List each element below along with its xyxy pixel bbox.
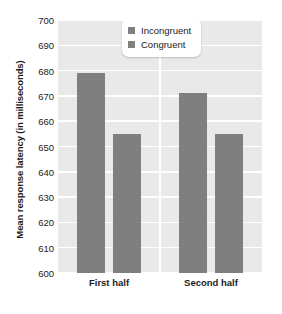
- y-tick-label: 610: [20, 242, 54, 253]
- y-tick-label: 670: [20, 90, 54, 101]
- y-tick-label: 600: [20, 268, 54, 279]
- legend-item: Incongruent: [128, 24, 191, 37]
- legend-swatch-icon: [128, 27, 135, 34]
- bar-chart: Mean response latency (in milliseconds) …: [0, 0, 282, 314]
- x-tick-label: First half: [59, 277, 159, 288]
- bar: [215, 134, 243, 273]
- y-tick-label: 640: [20, 166, 54, 177]
- legend-item: Congruent: [128, 38, 191, 51]
- legend-swatch-icon: [128, 41, 135, 48]
- y-tick-label: 700: [20, 15, 54, 26]
- bar: [113, 134, 141, 273]
- legend: IncongruentCongruent: [122, 18, 201, 57]
- bar: [179, 93, 207, 273]
- y-tick-label: 630: [20, 192, 54, 203]
- y-axis-tick-labels: 700690680670660650640630620610600: [18, 20, 54, 273]
- legend-label: Incongruent: [141, 25, 191, 36]
- x-axis-tick-labels: First halfSecond half: [58, 277, 262, 297]
- y-tick-label: 650: [20, 141, 54, 152]
- y-tick-label: 660: [20, 116, 54, 127]
- x-tick-label: Second half: [161, 277, 261, 288]
- plot-inner: [58, 20, 262, 273]
- y-tick-label: 680: [20, 65, 54, 76]
- y-tick-label: 690: [20, 40, 54, 51]
- category-divider: [159, 20, 161, 273]
- y-tick-label: 620: [20, 217, 54, 228]
- legend-label: Congruent: [141, 39, 185, 50]
- plot-area: [58, 20, 262, 273]
- bar: [77, 73, 105, 273]
